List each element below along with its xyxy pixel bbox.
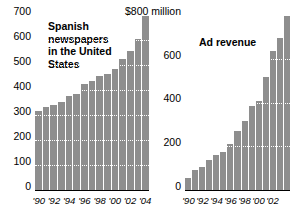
x-tick-label: '92 (196, 195, 208, 206)
bar (81, 84, 89, 192)
x-tick-label: '02 (124, 195, 136, 206)
y-tick-label: 0 (175, 181, 181, 192)
x-axis-line-spanish-newspapers (35, 190, 149, 191)
bar-series-spanish-newspapers (35, 16, 149, 191)
bar (50, 105, 58, 191)
bar (112, 69, 120, 192)
plot-area-spanish-newspapers: 7006005004003002001000 '90'92'94'96'98'0… (35, 16, 149, 191)
plot-area-ad-revenue: $800 million6004002000 '90'92'94'96'98'0… (185, 16, 290, 191)
x-tick-label: '98 (238, 195, 250, 206)
bar (89, 81, 97, 191)
x-tick-label: '92 (48, 195, 60, 206)
bar (263, 77, 270, 191)
x-tick-label: '96 (224, 195, 236, 206)
y-tick-label: 200 (163, 137, 181, 148)
y-tick-label: 200 (13, 131, 31, 142)
y-tick-label: 400 (163, 93, 181, 104)
x-tick-label: '98 (93, 195, 105, 206)
x-tick-label: '94 (63, 195, 75, 206)
x-tick-label: '90 (182, 195, 194, 206)
chart-panel-spanish-newspapers: Spanish newspapers in the United States … (0, 0, 152, 220)
bar-series-ad-revenue (185, 16, 290, 191)
bar (135, 39, 143, 192)
bar (206, 160, 213, 191)
dual-bar-chart-figure: Spanish newspapers in the United States … (0, 0, 295, 220)
x-tick-label: '96 (78, 195, 90, 206)
bar (73, 94, 81, 192)
x-tick-label: '94 (210, 195, 222, 206)
bar (284, 16, 290, 191)
x-tick-label: '90 (33, 195, 45, 206)
y-tick-label: 700 (13, 6, 31, 17)
y-tick-label: $800 million (125, 6, 181, 17)
bar (220, 152, 227, 191)
x-tick-label: '02 (266, 195, 278, 206)
bar (119, 59, 127, 192)
y-tick-label: 500 (13, 56, 31, 67)
bar (270, 51, 277, 191)
bar (142, 16, 149, 191)
bar (234, 131, 241, 191)
bar (199, 167, 206, 191)
bar (249, 106, 256, 191)
bar (127, 51, 135, 191)
bar (96, 76, 104, 191)
x-axis-labels-ad-revenue: '90'92'94'96'98'00'02 (185, 195, 290, 209)
bar (277, 38, 284, 191)
bar (58, 102, 66, 191)
chart-panel-ad-revenue: Ad revenue $800 million6004002000 '90'92… (152, 0, 295, 220)
y-tick-label: 400 (13, 81, 31, 92)
x-axis-line-ad-revenue (185, 190, 290, 191)
y-tick-label: 300 (13, 106, 31, 117)
y-tick-label: 600 (13, 31, 31, 42)
bar (242, 121, 249, 191)
x-tick-label: '04 (139, 195, 151, 206)
y-tick-label: 100 (13, 156, 31, 167)
bar (35, 111, 43, 191)
y-tick-label: 600 (163, 49, 181, 60)
bar (43, 107, 51, 191)
x-axis-labels-spanish-newspapers: '90'92'94'96'98'00'02'04 (35, 195, 149, 209)
bar (227, 144, 234, 191)
bar (213, 155, 220, 191)
y-tick-label: 0 (25, 181, 31, 192)
x-tick-label: '00 (109, 195, 121, 206)
bar (192, 170, 199, 191)
bar (104, 74, 112, 192)
bar (256, 101, 263, 191)
bar (66, 96, 74, 191)
x-tick-label: '00 (252, 195, 264, 206)
